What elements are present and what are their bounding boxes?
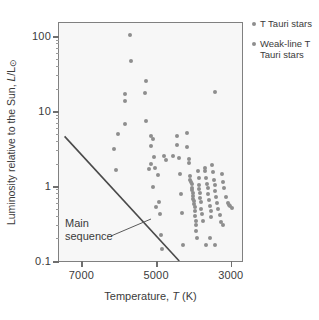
- data-point: [204, 176, 208, 180]
- data-point: [201, 219, 205, 223]
- data-point: [143, 91, 147, 95]
- data-point: [206, 186, 210, 190]
- data-point: [175, 134, 179, 138]
- data-point: [151, 185, 155, 189]
- plot-area: 0.1110100700050003000Mainsequence: [58, 22, 243, 262]
- data-point: [185, 131, 189, 135]
- legend-label: Weak-line T Tauri stars: [260, 38, 318, 60]
- x-axis-title-prefix: Temperature,: [104, 290, 172, 302]
- data-point: [157, 200, 161, 204]
- legend-marker-icon: [252, 22, 256, 26]
- data-point: [123, 122, 127, 126]
- data-point: [221, 180, 225, 184]
- y-axis-tick: [53, 261, 59, 263]
- data-point: [159, 233, 163, 237]
- x-axis-tick-label: 7000: [69, 269, 94, 281]
- data-point: [194, 219, 198, 223]
- data-point: [209, 209, 213, 213]
- legend-item-t-tauri: T Tauri stars: [252, 18, 318, 29]
- data-point: [171, 154, 175, 158]
- x-axis-tick-label: 5000: [143, 269, 168, 281]
- chart-figure: Luminosity relative to the Sun, L/L⊙ 0.1…: [0, 0, 319, 320]
- data-point: [162, 154, 166, 158]
- x-axis-title-suffix: (K): [179, 290, 197, 302]
- data-point: [204, 243, 208, 247]
- legend-marker-icon: [252, 42, 256, 46]
- data-point: [123, 92, 127, 96]
- main-sequence-label-line1: Main: [65, 217, 113, 230]
- x-axis-tick: [231, 261, 233, 267]
- data-point: [218, 213, 222, 217]
- data-point: [151, 137, 155, 141]
- legend: T Tauri stars Weak-line T Tauri stars: [252, 18, 318, 69]
- y-axis-tick-label: 0.1: [35, 255, 51, 267]
- data-point: [199, 207, 203, 211]
- main-sequence-label-line2: sequence: [65, 230, 113, 243]
- x-axis-tick: [156, 261, 158, 267]
- sun-symbol-icon: ⊙: [8, 59, 18, 67]
- y-axis-tick-label: 1: [45, 180, 51, 192]
- y-axis-tick-label: 100: [32, 30, 51, 42]
- x-axis-tick: [81, 261, 83, 267]
- y-axis-tick-label: 10: [38, 105, 51, 117]
- data-point: [208, 204, 212, 208]
- y-axis-title-symbol-rest: /L: [5, 67, 17, 76]
- data-point: [199, 200, 203, 204]
- legend-item-weak-line-t-tauri: Weak-line T Tauri stars: [252, 38, 318, 60]
- annotation-leader-line: [111, 219, 151, 236]
- data-point: [196, 169, 200, 173]
- data-point: [213, 243, 217, 247]
- main-sequence-label: Mainsequence: [65, 217, 113, 243]
- y-axis-title-symbol: L: [5, 76, 17, 82]
- data-point: [160, 247, 164, 251]
- data-point: [147, 167, 151, 171]
- data-point: [164, 158, 168, 162]
- x-axis-title-symbol: T: [172, 290, 179, 302]
- data-point: [208, 236, 212, 240]
- legend-label: T Tauri stars: [260, 18, 312, 29]
- data-point: [187, 161, 191, 165]
- data-point: [207, 198, 211, 202]
- y-axis-title-prefix: Luminosity relative to the Sun,: [5, 82, 17, 226]
- data-point: [181, 243, 185, 247]
- data-point: [205, 182, 209, 186]
- data-point: [195, 236, 199, 240]
- plot-inner: 0.1110100700050003000Mainsequence: [59, 23, 242, 261]
- x-axis-title: Temperature, T (K): [58, 290, 243, 302]
- data-point: [197, 176, 201, 180]
- x-axis-tick-label: 3000: [218, 269, 243, 281]
- data-point: [214, 195, 218, 199]
- data-point: [177, 156, 181, 160]
- data-point: [149, 144, 153, 148]
- data-point: [128, 33, 132, 37]
- data-point: [221, 223, 225, 227]
- y-axis-title: Luminosity relative to the Sun, L/L⊙: [4, 22, 18, 262]
